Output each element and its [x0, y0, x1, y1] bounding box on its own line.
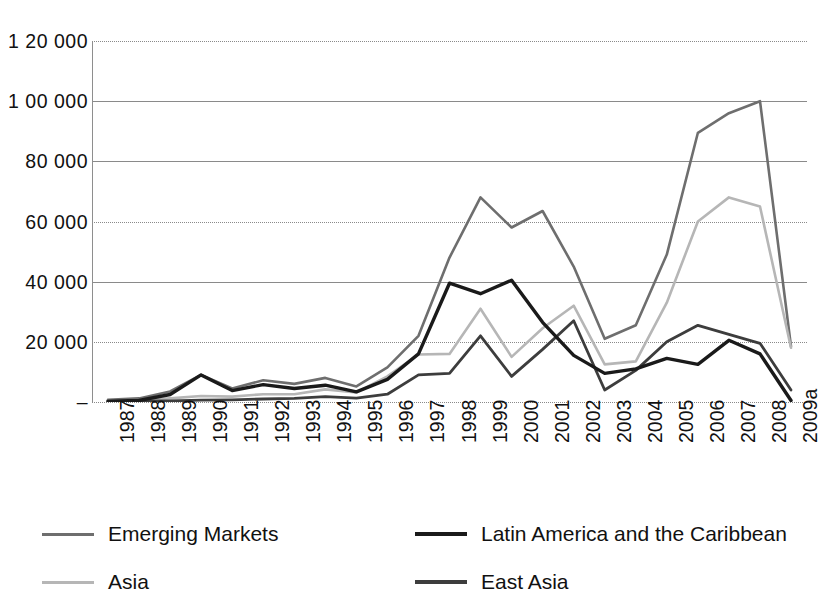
x-tick-label: 2000 [520, 413, 543, 443]
x-tick-label: 2002 [582, 413, 605, 443]
legend-item[interactable]: East Asia [415, 570, 569, 594]
x-tick-label: 2008 [768, 413, 791, 443]
chart-legend: Emerging MarketsLatin America and the Ca… [0, 512, 835, 608]
series-lines [92, 41, 807, 402]
legend-label: East Asia [481, 570, 569, 594]
x-tick-label: 1992 [271, 413, 294, 443]
x-tick-label: 1996 [395, 413, 418, 443]
plot-area [92, 41, 807, 402]
legend-label: Latin America and the Caribbean [481, 522, 787, 546]
x-tick-label: 2005 [675, 413, 698, 443]
x-tick-label: 1988 [147, 413, 170, 443]
y-tick-label: 20 000 [4, 331, 88, 354]
x-tick-label: 2007 [737, 413, 760, 443]
legend-item[interactable]: Emerging Markets [42, 522, 278, 546]
x-tick-label: 1997 [426, 413, 449, 443]
x-tick-label: 1995 [364, 413, 387, 443]
y-tick-label: 80 000 [4, 150, 88, 173]
legend-label: Asia [108, 570, 149, 594]
legend-swatch-icon [415, 532, 467, 536]
y-tick-label: 40 000 [4, 271, 88, 294]
x-tick-label: 1999 [489, 413, 512, 443]
legend-swatch-icon [415, 580, 467, 584]
x-tick-label: 1987 [116, 413, 139, 443]
x-tick-label: 1993 [302, 413, 325, 443]
x-tick-label: 1991 [240, 413, 263, 443]
legend-item[interactable]: Latin America and the Caribbean [415, 522, 787, 546]
x-tick-label: 1989 [178, 413, 201, 443]
x-tick-label: 1998 [458, 413, 481, 443]
x-tick-label: 1994 [333, 413, 356, 443]
y-tick-label: – [4, 391, 88, 414]
y-tick-label: 1 00 000 [4, 90, 88, 113]
legend-label: Emerging Markets [108, 522, 278, 546]
y-tick-label: 60 000 [4, 211, 88, 234]
y-tick-label: 1 20 000 [4, 30, 88, 53]
legend-item[interactable]: Asia [42, 570, 149, 594]
legend-swatch-icon [42, 581, 94, 584]
x-tick-label: 2004 [644, 413, 667, 443]
x-tick-label: 2003 [613, 413, 636, 443]
chart-container: 1 20 0001 00 00080 00060 00040 00020 000… [0, 0, 835, 616]
x-tick-label: 2009a [799, 413, 822, 443]
x-tick-label: 1990 [209, 413, 232, 443]
legend-swatch-icon [42, 533, 94, 536]
series-line [108, 197, 791, 400]
series-line [108, 280, 791, 401]
x-tick-label: 2001 [551, 413, 574, 443]
x-tick-label: 2006 [706, 413, 729, 443]
